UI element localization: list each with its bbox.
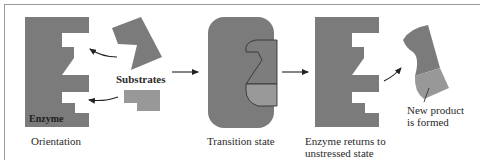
arrow-to-product (384, 68, 401, 81)
arrow-lower-substrate-to-enzyme (89, 97, 118, 101)
enzyme-returned-shape (315, 17, 379, 127)
caption-new-product: New product is formed (407, 104, 464, 128)
arrow-upper-substrate-to-enzyme (90, 49, 117, 57)
substrate-upper (112, 17, 162, 70)
substrate-lower (124, 90, 160, 111)
enzyme-label: Enzyme (29, 113, 63, 124)
caption-transition-state: Transition state (207, 135, 275, 147)
enzyme-shape (25, 17, 89, 127)
product-dark-part (403, 25, 440, 76)
caption-enzyme-returns: Enzyme returns to unstressed state (305, 135, 386, 159)
substrates-label: Substrates (116, 73, 166, 85)
caption-orientation: Orientation (31, 135, 81, 147)
